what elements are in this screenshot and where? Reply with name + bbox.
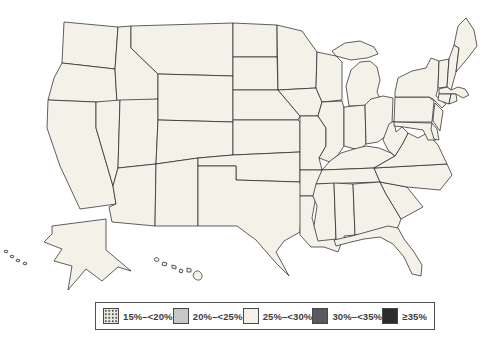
state-HI [154, 258, 202, 280]
state-TX [198, 166, 302, 276]
state-AK-aleutian-islands [4, 250, 27, 265]
us-map [0, 0, 493, 342]
state-ND [233, 23, 277, 57]
state-WY [158, 74, 233, 122]
legend-item-30-35: 30%–<35% [312, 308, 382, 324]
legend-swatch-20-25 [173, 308, 189, 324]
legend-label-30-35: 30%–<35% [332, 311, 382, 322]
state-KS [233, 120, 300, 155]
state-NM [155, 158, 198, 226]
state-TN [316, 168, 380, 184]
states-layer [4, 18, 477, 290]
state-MN [277, 25, 317, 90]
state-OR [48, 63, 117, 103]
legend-item-15-20: 15%–<20% [103, 308, 173, 324]
state-MI-upper-peninsula [332, 41, 378, 60]
state-WI [316, 52, 342, 102]
legend-swatch-25-30 [243, 308, 259, 324]
state-AL [334, 183, 355, 244]
state-IN [344, 105, 366, 150]
state-SD [233, 57, 278, 90]
legend-label-20-25: 20%–<25% [193, 311, 243, 322]
legend-label-15-20: 15%–<20% [123, 311, 173, 322]
legend-item-25-30: 25%–<30% [243, 308, 313, 324]
state-MS [313, 183, 336, 241]
legend-swatch-30-35 [312, 308, 328, 324]
legend-swatch-35-plus [382, 308, 398, 324]
state-ME [454, 18, 477, 72]
legend-item-35-plus: ≥35% [382, 308, 427, 324]
state-UT [118, 99, 158, 168]
map-legend: 15%–<20% 20%–<25% 25%–<30% 30%–<35% ≥35% [95, 302, 435, 330]
legend-item-20-25: 20%–<25% [173, 308, 243, 324]
state-WA [62, 22, 118, 69]
legend-label-25-30: 25%–<30% [263, 311, 313, 322]
state-MO [300, 116, 326, 170]
us-choropleth-figure: 15%–<20% 20%–<25% 25%–<30% 30%–<35% ≥35% [0, 0, 493, 342]
legend-swatch-15-20 [103, 308, 119, 324]
state-PA [394, 97, 434, 122]
legend-label-35-plus: ≥35% [402, 311, 427, 322]
state-AK [44, 219, 131, 290]
